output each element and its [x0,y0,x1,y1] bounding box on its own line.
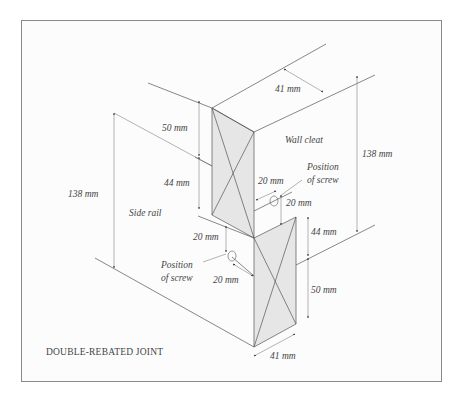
dim-bottom-width: 41 mm [270,351,296,361]
dim-upper-screw-v: 20 mm [286,198,312,208]
dim-right-lower-44: 44 mm [311,227,337,237]
dim-lower-screw-v: 20 mm [193,232,219,242]
lower-screw-label-line2: of screw [161,273,193,283]
upper-screw-label-line1: Position [306,162,339,172]
dim-lower-screw-h: 20 mm [213,275,239,285]
wall-cleat-label: Wall cleat [285,135,323,145]
dim-left-total: 138 mm [68,189,98,199]
lower-screw-icon [228,251,236,261]
dim-right-lower-50: 50 mm [311,285,337,295]
dim-upper-screw-h: 20 mm [258,176,284,186]
lower-screw-label-line1: Position [160,260,193,270]
dim-left-upper-50: 50 mm [162,123,188,133]
dim-right-total: 138 mm [362,149,392,159]
side-rail-label: Side rail [129,208,162,218]
diagram-title: DOUBLE-REBATED JOINT [46,347,163,357]
dim-left-upper-44: 44 mm [164,178,190,188]
wall-cleat [148,44,375,238]
upper-screw-label-line2: of screw [307,175,339,185]
joint-diagram: 41 mm 41 mm 50 mm 44 mm 44 mm 50 mm 138 … [0,0,463,403]
dim-top-width: 41 mm [275,84,301,94]
